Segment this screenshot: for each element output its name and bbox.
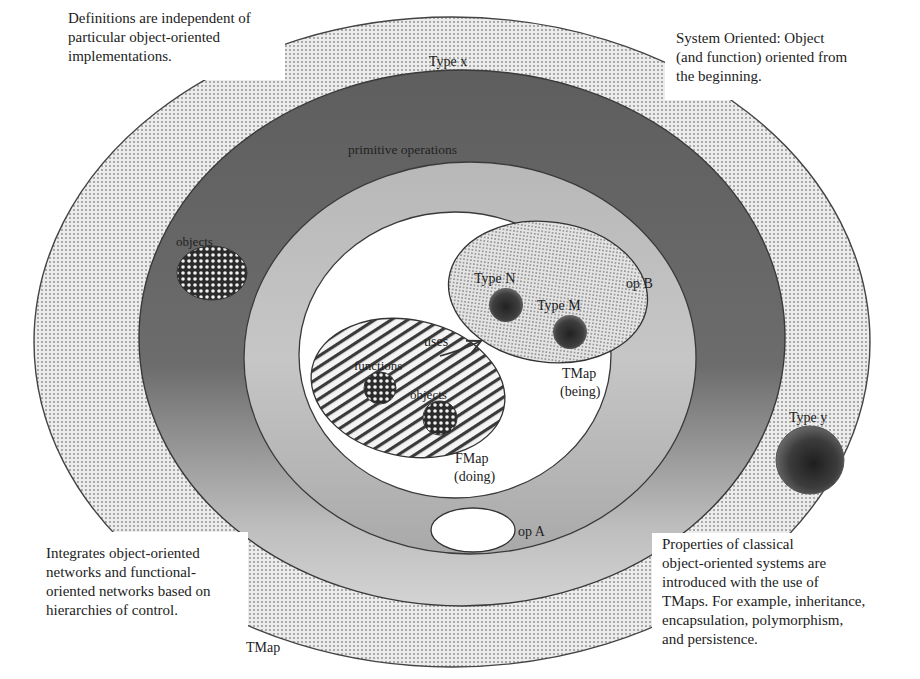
- label-fmap-doing-2: (doing): [454, 469, 496, 485]
- label-type-x: Type x: [429, 54, 467, 69]
- label-objects-outer: objects: [176, 234, 213, 249]
- label-op-b: op B: [626, 276, 653, 291]
- label-objects-inner: objects: [410, 387, 447, 402]
- label-primitive-operations: primitive operations: [348, 142, 457, 157]
- label-uses: uses: [424, 334, 448, 349]
- label-op-a: op A: [518, 524, 546, 539]
- objects-inner-blob: [423, 401, 457, 435]
- label-fmap-doing-1: FMap: [455, 451, 488, 466]
- functions-blob: [364, 372, 396, 404]
- label-tmap-bottom: TMap: [246, 640, 280, 655]
- type-y-blob: [776, 426, 844, 494]
- label-tmap-being-1: TMap: [562, 366, 596, 381]
- type-m-blob: [553, 315, 587, 349]
- label-type-n: Type N: [474, 271, 515, 286]
- note-bottom-left: Integrates object-oriented networks and …: [46, 544, 256, 620]
- label-functions: functions: [354, 358, 402, 373]
- note-bottom-right: Properties of classical object-oriented …: [662, 535, 912, 649]
- label-tmap-being-2: (being): [560, 384, 601, 400]
- note-top-left: Definitions are independent of particula…: [68, 9, 288, 66]
- objects-outer-blob: [177, 246, 247, 300]
- note-top-right: System Oriented: Object (and function) o…: [676, 29, 896, 86]
- type-n-blob: [489, 288, 523, 322]
- label-type-m: Type M: [537, 298, 581, 313]
- diagram-canvas: Type x primitive operations objects Type…: [0, 0, 920, 679]
- op-a-ellipse: [431, 508, 515, 552]
- label-type-y: Type y: [789, 410, 827, 425]
